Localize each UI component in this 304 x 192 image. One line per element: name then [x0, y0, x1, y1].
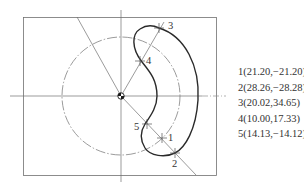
radial-line-60deg [121, 22, 164, 96]
point-label-1: 1 [168, 132, 173, 143]
diagonal-line-2 [121, 96, 196, 175]
coordinate-5: 5(14.13,−14.12) [238, 126, 304, 142]
diagonal-line-1 [77, 17, 121, 96]
kidney-slot-profile [134, 26, 198, 156]
point-label-5: 5 [134, 121, 139, 132]
point-label-3: 3 [168, 20, 173, 31]
coordinate-4: 4(10.00,17.33) [238, 111, 304, 127]
diagram-canvas: 1 2 3 4 5 1(21.20,−21.20) 2(28.26,−28.28… [0, 0, 304, 192]
point-label-4: 4 [146, 55, 152, 66]
coordinate-2: 2(28.26,−28.28) [238, 80, 304, 96]
coordinate-3: 3(20.02,34.65) [238, 95, 304, 111]
coordinate-1: 1(21.20,−21.20) [238, 64, 304, 80]
coordinate-list: 1(21.20,−21.20) 2(28.26,−28.28) 3(20.02,… [238, 64, 304, 142]
point-label-2: 2 [172, 158, 177, 169]
center-point-icon [118, 93, 124, 99]
